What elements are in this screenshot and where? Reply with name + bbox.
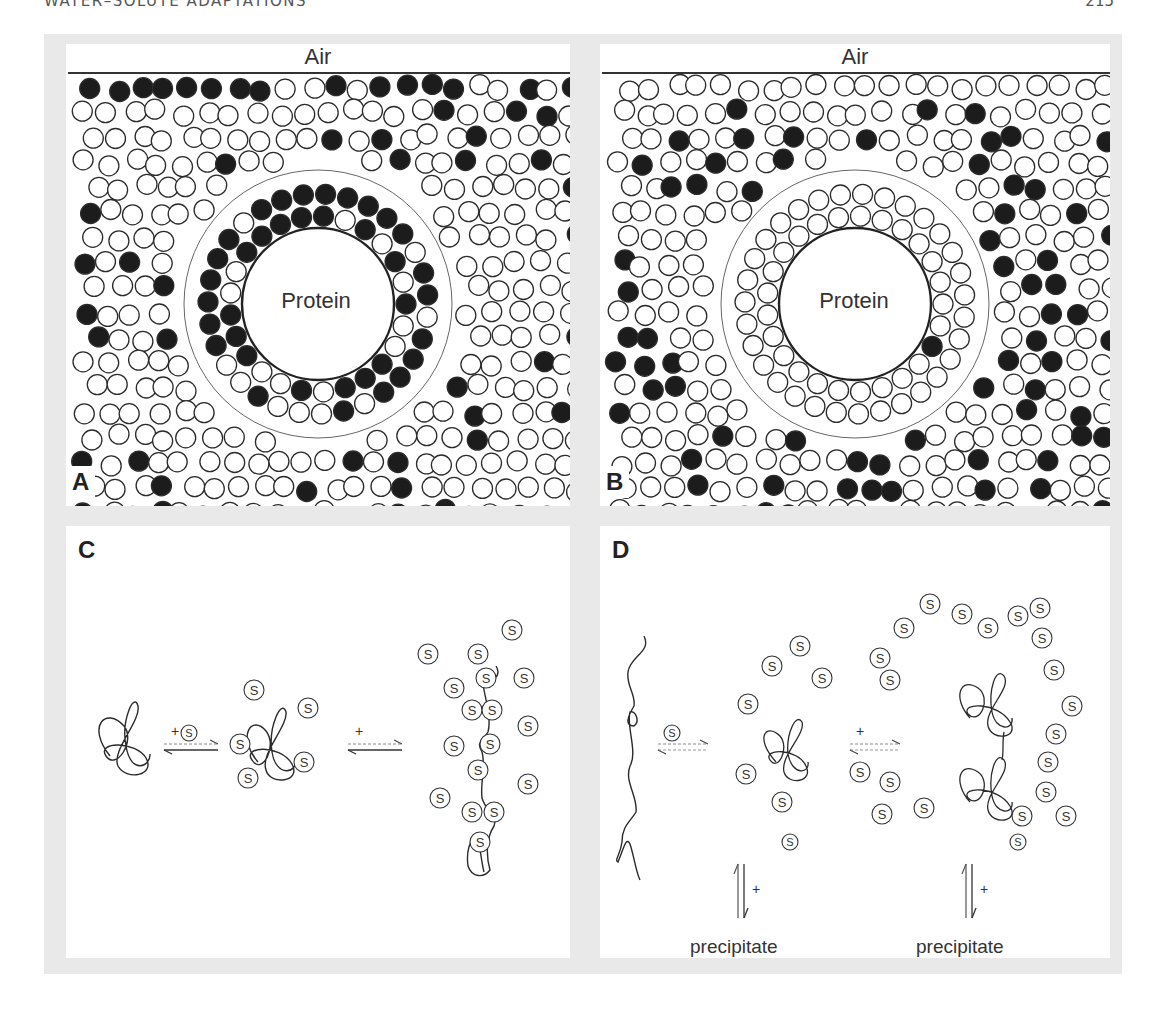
water-molecule xyxy=(686,230,706,250)
solute-molecule xyxy=(316,184,336,204)
svg-text:S: S xyxy=(300,755,309,770)
water-molecule xyxy=(979,178,999,198)
solute-molecule xyxy=(1042,352,1062,372)
water-molecule xyxy=(1000,228,1020,248)
water-molecule xyxy=(1095,75,1110,95)
solute-molecule xyxy=(734,129,754,149)
solute-molecule xyxy=(995,204,1015,224)
solute-molecule xyxy=(742,181,762,201)
solute-molecule xyxy=(154,276,174,296)
water-molecule xyxy=(384,107,404,127)
water-molecule xyxy=(732,201,752,221)
water-molecule xyxy=(1045,380,1065,400)
water-molecule xyxy=(543,429,563,449)
water-molecule xyxy=(457,256,477,276)
water-molecule xyxy=(107,374,127,394)
water-molecule xyxy=(362,101,382,121)
svg-text:+: + xyxy=(171,723,179,739)
water-molecule xyxy=(539,179,559,199)
solute-molecule xyxy=(403,349,423,369)
water-molecule xyxy=(661,456,681,476)
water-molecule xyxy=(84,276,104,296)
water-molecule xyxy=(678,505,698,506)
water-molecule xyxy=(109,231,129,251)
water-molecule xyxy=(473,478,493,498)
water-molecule xyxy=(201,128,221,148)
solute-molecule xyxy=(153,501,173,506)
water-molecule xyxy=(536,199,556,219)
water-molecule xyxy=(1095,176,1110,196)
solute-molecule xyxy=(396,294,416,314)
solute-molecule xyxy=(89,327,109,347)
water-molecule xyxy=(413,100,433,120)
water-molecule xyxy=(479,203,499,223)
svg-text:S: S xyxy=(468,703,477,718)
solute-molecule xyxy=(531,150,551,170)
water-molecule xyxy=(666,431,686,451)
water-molecule xyxy=(272,106,292,126)
solute-molecule xyxy=(905,430,925,450)
solute-molecule xyxy=(764,475,784,495)
water-molecule xyxy=(561,303,570,323)
water-molecule xyxy=(654,104,674,124)
water-molecule xyxy=(540,324,560,344)
water-molecule xyxy=(448,128,468,148)
solute-molecule xyxy=(637,329,657,349)
solute-molecule xyxy=(151,476,171,496)
water-molecule xyxy=(907,125,927,145)
water-molecule xyxy=(295,104,315,124)
solute-molecule xyxy=(177,78,197,98)
water-molecule xyxy=(622,176,642,196)
water-molecule xyxy=(641,230,661,250)
solute-molecule xyxy=(688,475,708,495)
solute-molecule xyxy=(248,386,268,406)
water-molecule xyxy=(194,403,214,423)
running-header: WATER–SOLUTE ADAPTATIONS xyxy=(44,0,307,10)
water-molecule xyxy=(553,155,570,175)
svg-text:S: S xyxy=(856,765,865,780)
solute-molecule xyxy=(778,505,798,506)
solute-molecule xyxy=(1001,126,1021,146)
water-molecule xyxy=(771,213,791,233)
water-molecule xyxy=(659,503,679,506)
water-molecule xyxy=(1021,354,1041,374)
solute-molecule xyxy=(1046,274,1066,294)
solute-molecule xyxy=(385,252,405,272)
water-molecule xyxy=(468,374,488,394)
water-molecule xyxy=(727,454,747,474)
svg-text:S: S xyxy=(236,737,245,752)
solute-molecule xyxy=(434,100,454,120)
water-molecule xyxy=(200,452,220,472)
water-molecule xyxy=(608,152,628,172)
water-molecule xyxy=(483,257,503,277)
water-molecule xyxy=(892,368,912,388)
water-molecule xyxy=(806,149,826,169)
water-molecule xyxy=(946,105,966,125)
svg-text:S: S xyxy=(1052,727,1061,742)
water-molecule xyxy=(806,75,826,95)
water-molecule xyxy=(444,477,464,497)
water-molecule xyxy=(1069,154,1089,174)
water-molecule xyxy=(631,201,651,221)
panel-b: Air Protein B xyxy=(600,44,1110,506)
water-molecule xyxy=(135,276,155,296)
water-molecule xyxy=(442,428,462,448)
water-molecule xyxy=(431,455,451,475)
water-molecule xyxy=(347,80,367,100)
water-molecule xyxy=(951,263,971,283)
water-molecule xyxy=(555,455,570,475)
svg-text:S: S xyxy=(250,683,259,698)
solute-molecule xyxy=(999,350,1019,370)
water-molecule xyxy=(1102,278,1110,298)
solute-molecule xyxy=(862,480,882,500)
svg-text:S: S xyxy=(1044,755,1053,770)
water-molecule xyxy=(537,80,557,100)
solute-molecule xyxy=(567,224,570,244)
water-molecule xyxy=(433,401,453,421)
water-molecule xyxy=(531,251,551,271)
water-molecule xyxy=(657,402,677,422)
water-molecule xyxy=(1053,179,1073,199)
water-molecule xyxy=(927,367,947,387)
water-molecule xyxy=(909,354,929,374)
water-molecule xyxy=(632,506,652,507)
